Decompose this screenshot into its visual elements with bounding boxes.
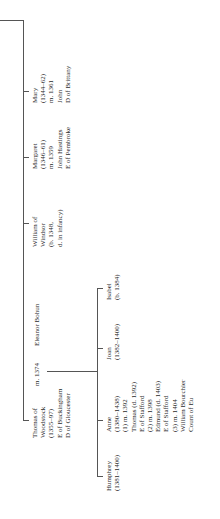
tick-joan [97, 348, 103, 349]
tick-humphrey [97, 476, 103, 477]
marriage-label: m. 1374 [33, 363, 41, 386]
dates: (1355–97) [47, 389, 55, 438]
tick-william [23, 223, 29, 224]
person-humphrey: Humphrey (1381–1400) [105, 455, 121, 491]
tick-mary [23, 91, 29, 92]
title: D of Gloucester [64, 389, 72, 438]
tick-isabel [97, 288, 103, 289]
generation2-trunk [97, 288, 98, 477]
person-mary: Mary (1344–62) m. 1361 John D of Brittan… [31, 66, 72, 103]
generation1-trunk [23, 20, 24, 421]
tick-margaret [23, 157, 29, 158]
tick-thomas [23, 420, 29, 421]
person-joan: Joan (1382–1400) [105, 324, 121, 360]
marriage-connector [47, 371, 97, 372]
person-anne: Anne (1380–1438) (1) m. 1392 Thomas (d. … [105, 380, 195, 432]
person-eleanor-bohun: Eleanor Bohun [33, 304, 41, 346]
name-line: Woodstock [39, 389, 47, 438]
tick-anne [97, 420, 103, 421]
name-line: Thomas of [31, 389, 39, 438]
person-isabel: Isabel (b. 1384) [105, 274, 121, 300]
title: E of Buckingham [56, 389, 64, 438]
person-thomas-of-woodstock: Thomas of Woodstock (1355–97) E of Bucki… [31, 389, 72, 438]
person-margaret: Margaret (1346–61) m. 1359 John Hastings… [31, 127, 72, 169]
person-william-of-windsor: William of Windsor (b. 1348, d. in infan… [31, 209, 64, 247]
parent-connector-top [0, 20, 24, 21]
